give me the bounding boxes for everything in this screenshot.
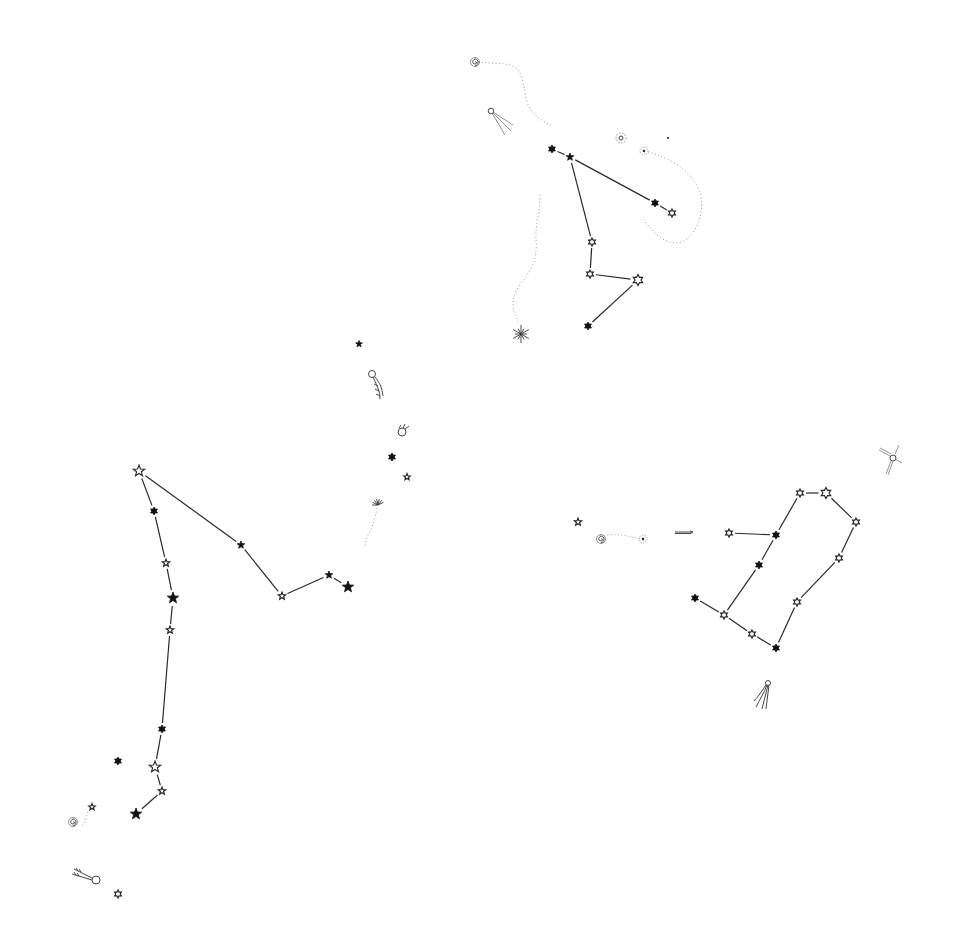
celestial-decorations (69, 58, 903, 885)
filled-star-icon (159, 725, 166, 733)
constellation-line (572, 163, 591, 236)
loose-star-icon (389, 453, 396, 461)
dotted-trails (82, 62, 702, 826)
filled-star-icon (151, 507, 158, 515)
left-constellation (142, 476, 341, 809)
filled-star-icon (237, 541, 245, 548)
filled-star-icon (585, 322, 592, 330)
constellation-line (245, 550, 278, 592)
constellation-line (700, 601, 719, 612)
open-star-icon (162, 559, 170, 566)
constellation-line (157, 775, 160, 786)
starburst-mid-icon (372, 499, 383, 505)
spiral-galaxy-left-icon (69, 818, 78, 827)
upper-constellation-stars (549, 145, 676, 330)
meteor-streak-icon (675, 531, 693, 534)
comet-mid-icon (369, 371, 384, 400)
comet-lower-left-icon (72, 868, 100, 884)
constellation-line (142, 478, 152, 505)
filled-star-icon (692, 594, 699, 602)
constellation-line (762, 540, 773, 560)
constellation-line (156, 735, 160, 759)
constellation-line (831, 498, 851, 518)
trail-top (478, 62, 552, 126)
constellation-line (596, 275, 631, 279)
filled-star-icon (773, 531, 780, 539)
loose-star-icon (667, 137, 669, 139)
constellation-canvas (0, 0, 958, 944)
open-star-icon (836, 554, 843, 562)
open-star-icon (166, 626, 174, 633)
constellation-line (842, 527, 854, 552)
open-star-icon (726, 529, 733, 537)
small-planet-icon (398, 424, 409, 436)
open-star-icon (797, 489, 804, 497)
open-star-icon (278, 592, 286, 599)
open-star-icon (587, 270, 594, 278)
constellation-line (801, 562, 835, 597)
constellation-line (590, 248, 591, 268)
filled-star-icon (549, 145, 556, 153)
constellation-line (729, 618, 747, 630)
constellation-line (779, 498, 797, 530)
satellite-icon (879, 445, 902, 475)
filled-star-icon (167, 592, 178, 603)
ringed-object-right-icon (639, 535, 647, 543)
spiral-galaxy-right-icon (597, 535, 606, 544)
constellation-line (171, 606, 173, 624)
constellation-line (575, 160, 649, 200)
filled-star-icon (342, 581, 353, 592)
constellation-line (162, 636, 169, 723)
filled-star-icon (130, 808, 141, 819)
filled-star-icon (566, 153, 574, 160)
constellation-line (660, 206, 667, 210)
constellation-line (167, 569, 171, 590)
loose-star-icon (115, 890, 122, 898)
trail-left-wave (513, 195, 540, 322)
constellation-line (727, 570, 755, 610)
comet-upper-icon (488, 108, 513, 135)
open-star-icon (133, 465, 144, 476)
constellation-line (735, 533, 770, 534)
filled-star-icon (115, 757, 122, 765)
upper-constellation (557, 151, 666, 322)
filled-star-icon (756, 561, 763, 569)
comet-lower-right-icon (754, 681, 771, 710)
open-star-icon (633, 275, 643, 286)
open-star-icon (794, 598, 801, 606)
constellation-line (334, 578, 341, 583)
nebula-upper-icon (616, 133, 626, 143)
constellation-line (142, 795, 158, 809)
open-star-icon (669, 209, 676, 217)
right-constellation (700, 493, 853, 645)
constellation-line (557, 151, 564, 154)
starburst-upper-icon (513, 325, 529, 343)
trail-right-loop (642, 152, 702, 243)
spiral-galaxy-top-icon (471, 58, 480, 67)
constellation-stars (89, 137, 860, 898)
trail-left-small (82, 812, 88, 826)
left-constellation-stars (115, 465, 354, 819)
loose-star-icon (89, 804, 96, 810)
loose-star-icon (356, 341, 363, 347)
constellation-line (287, 577, 323, 593)
right-constellation-stars (692, 488, 860, 653)
filled-star-icon (773, 644, 780, 652)
constellation-line (155, 517, 164, 557)
constellation-line (757, 637, 771, 645)
trail-mid (364, 508, 377, 548)
constellation-line (592, 285, 632, 322)
open-star-icon (721, 611, 728, 619)
loose-star-icon (404, 474, 411, 480)
open-star-icon (821, 488, 831, 499)
open-star-icon (749, 630, 756, 638)
ringed-object-upper-icon (640, 147, 648, 155)
trail-right-h (604, 535, 640, 539)
open-star-icon (158, 787, 166, 794)
open-star-icon (853, 518, 860, 526)
constellation-lines (142, 151, 854, 808)
open-star-icon (149, 761, 160, 772)
open-star-icon (589, 238, 596, 246)
filled-star-icon (652, 199, 659, 207)
loose-star-icon (574, 518, 582, 525)
